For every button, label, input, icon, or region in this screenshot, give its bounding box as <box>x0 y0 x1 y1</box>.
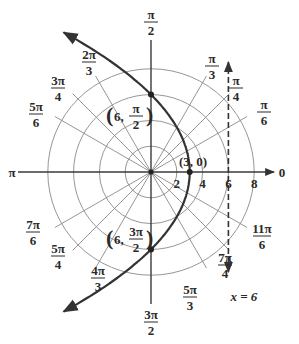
pole-point <box>149 170 154 175</box>
point-label-6-pi-2-r: 6, <box>114 109 124 124</box>
grid-ray-240 <box>96 172 151 268</box>
point-label-6-pi-2-lparen: ( <box>106 102 113 127</box>
point-label-6-pi-2-rparen: ) <box>146 102 153 127</box>
angle-label-a135-numerator: 3π <box>51 73 65 88</box>
point-label-6-pi-2-theta: π2 <box>129 101 143 132</box>
angle-label-a225-numerator: 5π <box>51 241 65 256</box>
angle-label-a225-denominator: 4 <box>55 257 62 272</box>
angle-label-a60-numerator: π <box>208 51 215 66</box>
angle-label-a300-denominator: 3 <box>187 298 194 313</box>
angle-label-a240-denominator: 3 <box>95 279 102 294</box>
point-label-6-3pi-2-theta: 3π2 <box>129 224 143 255</box>
point-label-6-pi-2-theta-numerator: π <box>132 101 139 116</box>
point-3-0 <box>187 169 193 175</box>
point-6-90 <box>148 92 154 98</box>
point-label-6-3pi-2-rparen: ) <box>146 225 153 250</box>
angle-label-a330-numerator: 11π <box>252 221 271 236</box>
angle-label-a135-denominator: 4 <box>55 89 62 104</box>
angle-label-a45-denominator: 4 <box>233 89 240 104</box>
angle-label-a225: 5π4 <box>51 241 65 272</box>
angle-label-a180-text: π <box>8 165 15 180</box>
angle-label-a30-denominator: 6 <box>261 113 268 128</box>
angle-label-a150: 5π6 <box>29 99 43 130</box>
angle-label-a90-denominator: 2 <box>148 23 155 38</box>
point-label-6-3pi-2-r: 6, <box>114 232 124 247</box>
point-label-6-3pi-2-theta-numerator: 3π <box>129 224 143 239</box>
angle-label-a315-denominator: 4 <box>222 266 229 281</box>
radial-tick-label: 2 <box>174 176 181 191</box>
radial-tick-label: 4 <box>199 176 206 191</box>
grid-ray-210 <box>55 172 151 227</box>
angle-label-a210: 7π6 <box>26 217 40 248</box>
angle-label-a240-numerator: 4π <box>91 263 105 278</box>
directrix-label: x = 6 <box>229 289 257 304</box>
angle-label-a330: 11π6 <box>252 221 271 252</box>
angle-label-a0: 0 <box>279 165 286 180</box>
angle-label-a315-numerator: 7π <box>218 250 232 265</box>
angle-label-a300-numerator: 5π <box>183 282 197 297</box>
point-label-6-3pi-2-lparen: ( <box>106 225 113 250</box>
angle-label-a300: 5π3 <box>183 282 197 313</box>
angle-label-a150-numerator: 5π <box>29 99 43 114</box>
angle-label-a135: 3π4 <box>51 73 65 104</box>
angle-label-a120: 2π3 <box>82 47 96 78</box>
point-label-6-pi-2-theta-denominator: 2 <box>133 117 140 132</box>
angle-label-a270: 3π2 <box>144 307 158 338</box>
angle-label-a150-denominator: 6 <box>33 115 40 130</box>
angle-label-a45: π4 <box>229 73 243 104</box>
angle-label-a210-denominator: 6 <box>30 233 37 248</box>
angle-label-a45-numerator: π <box>232 73 239 88</box>
radial-tick-label: 8 <box>251 176 258 191</box>
angle-label-a270-denominator: 2 <box>148 323 155 338</box>
angle-label-a60-denominator: 3 <box>209 67 216 82</box>
angle-label-a120-denominator: 3 <box>86 63 93 78</box>
angle-label-a210-numerator: 7π <box>26 217 40 232</box>
point-label-6-3pi-2-theta-denominator: 2 <box>133 240 140 255</box>
polar-graph: 2468x = 6(3, 0)0π6π4π3π22π33π45π6π7π65π4… <box>0 0 299 344</box>
angle-label-a0-text: 0 <box>279 165 286 180</box>
point-label-3-0: (3, 0) <box>179 154 207 169</box>
angle-label-a90-numerator: π <box>147 7 154 22</box>
angle-label-a240: 4π3 <box>91 263 105 294</box>
angle-label-a60: π3 <box>205 51 219 82</box>
angle-label-a120-numerator: 2π <box>82 47 96 62</box>
angle-label-a30: π6 <box>257 97 271 128</box>
point-label-6-pi-2: (6,) <box>106 102 153 127</box>
angle-label-a180: π <box>8 165 15 180</box>
angle-label-a90: π2 <box>144 7 158 38</box>
angle-label-a315: 7π4 <box>218 250 232 281</box>
angle-label-a330-denominator: 6 <box>259 237 266 252</box>
angle-label-a270-numerator: 3π <box>144 307 158 322</box>
radial-tick-label: 6 <box>225 176 232 191</box>
angle-label-a30-numerator: π <box>260 97 267 112</box>
